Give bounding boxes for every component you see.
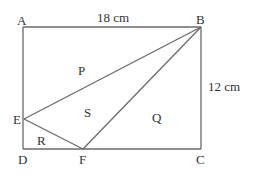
segment-ef xyxy=(24,119,83,149)
region-label-q: Q xyxy=(152,110,162,125)
vertex-label-b: B xyxy=(196,12,205,27)
vertex-label-e: E xyxy=(13,112,21,127)
region-label-s: S xyxy=(84,105,91,120)
vertex-label-f: F xyxy=(79,152,86,167)
vertex-label-c: C xyxy=(196,152,205,167)
dimension-top-label: 18 cm xyxy=(97,10,129,25)
segment-bf xyxy=(83,27,201,149)
region-label-p: P xyxy=(78,63,85,78)
diagram-canvas: A B C D E F 18 cm 12 cm P S Q R xyxy=(0,0,254,179)
region-label-r: R xyxy=(37,133,46,148)
segment-be xyxy=(24,27,201,119)
vertex-label-a: A xyxy=(17,13,27,28)
vertex-label-d: D xyxy=(18,152,27,167)
geometry-diagram: A B C D E F 18 cm 12 cm P S Q R xyxy=(0,0,254,179)
dimension-right-label: 12 cm xyxy=(208,79,240,94)
